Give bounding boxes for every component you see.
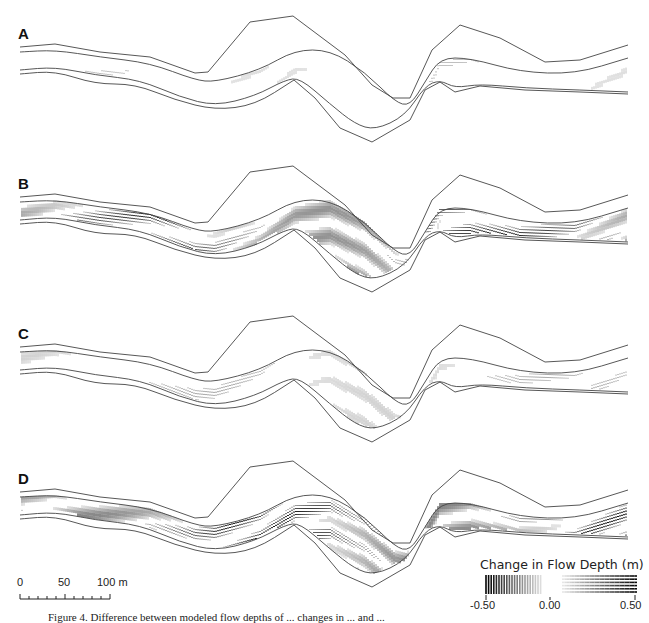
legend-tick-min: -0.50 <box>470 599 495 611</box>
panel-c: C <box>0 300 649 450</box>
channel-map <box>0 150 649 300</box>
channel-map <box>0 0 649 150</box>
panel-b: B <box>0 150 649 300</box>
legend: Change in Flow Depth (m) -0.50 0.00 0.50 <box>470 557 649 612</box>
depth-change-fill <box>22 200 626 278</box>
bank-lines <box>20 16 628 142</box>
figure-caption: Figure 4. Difference between modeled flo… <box>48 611 385 623</box>
legend-negative-ramp <box>486 575 541 594</box>
legend-tick-max: 0.50 <box>620 599 641 611</box>
channel-map <box>0 300 649 450</box>
legend-positive-ramp <box>562 576 637 592</box>
scale-ruler <box>14 576 134 606</box>
depth-change-fill <box>85 60 626 90</box>
panel-a: A <box>0 0 649 150</box>
legend-tick-zero: 0.00 <box>539 599 560 611</box>
depth-change-fill <box>22 350 627 429</box>
scale-bar: 0 50 100 m <box>14 576 134 606</box>
